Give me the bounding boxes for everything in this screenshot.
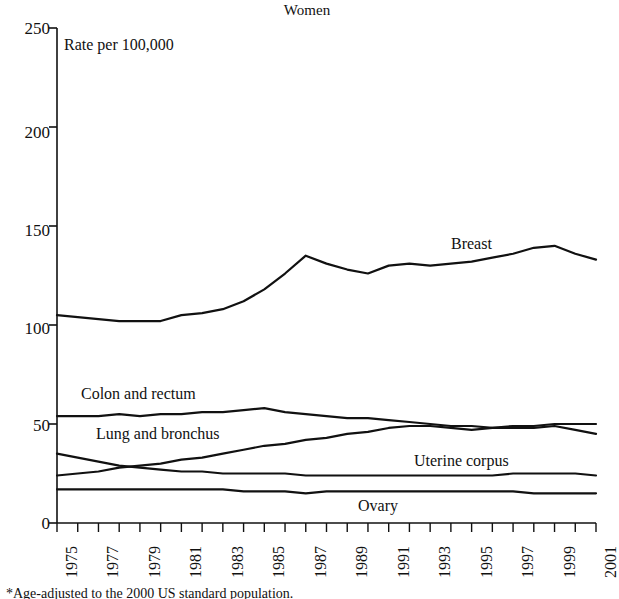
x-tick-1997: 1997 (520, 546, 536, 578)
x-tick-1987: 1987 (313, 546, 329, 578)
x-axis-tick-labels: 1975197719791981198319851987198919911993… (0, 530, 614, 590)
x-tick-1977: 1977 (105, 546, 121, 578)
x-tick-1975: 1975 (64, 546, 80, 578)
x-tick-1989: 1989 (354, 546, 370, 578)
series-line-ovary (57, 489, 596, 493)
x-tick-1981: 1981 (188, 546, 204, 578)
series-label-colon-and-rectum: Colon and rectum (81, 385, 196, 403)
x-tick-1979: 1979 (147, 546, 163, 578)
series-label-ovary: Ovary (358, 497, 398, 515)
x-tick-1985: 1985 (271, 546, 287, 578)
series-label-lung-and-bronchus: Lung and bronchus (96, 425, 220, 443)
x-tick-1999: 1999 (562, 546, 578, 578)
series-lines (57, 246, 596, 493)
x-tick-1995: 1995 (479, 546, 495, 578)
chart-footnote: *Age-adjusted to the 2000 US standard po… (6, 586, 606, 599)
y-axis-ticks (49, 28, 57, 523)
series-line-uterine-corpus (57, 454, 596, 476)
x-tick-1983: 1983 (230, 546, 246, 578)
series-line-breast (57, 246, 596, 321)
x-tick-1993: 1993 (437, 546, 453, 578)
x-tick-2001: 2001 (603, 546, 619, 578)
x-tick-1991: 1991 (396, 546, 412, 578)
series-label-uterine-corpus: Uterine corpus (414, 452, 509, 470)
series-label-breast: Breast (451, 235, 492, 253)
